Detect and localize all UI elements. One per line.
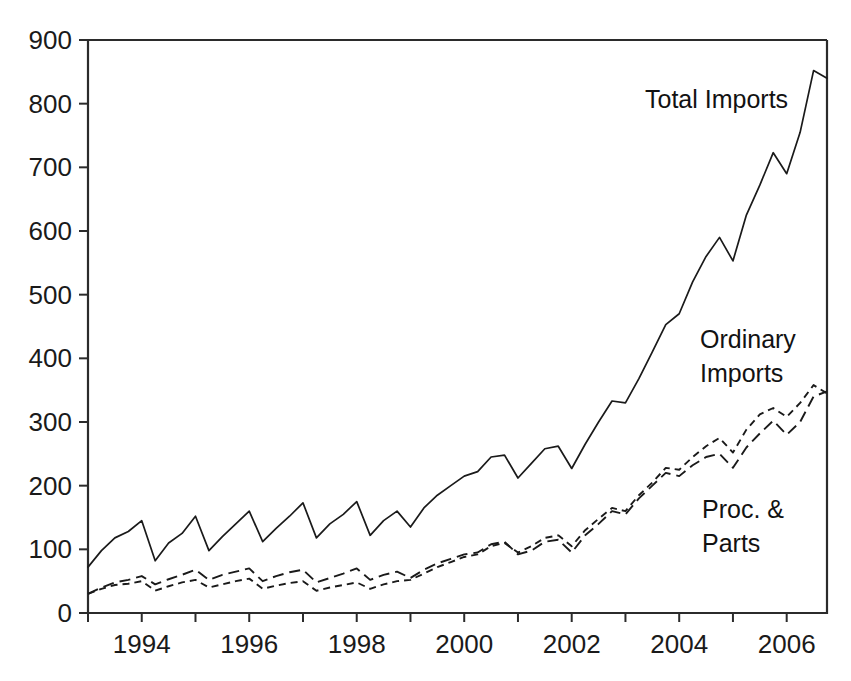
- annotation-line: Imports: [700, 359, 783, 387]
- x-tick-label: 2004: [650, 629, 708, 659]
- annotation-total-imports: Total Imports: [645, 85, 788, 113]
- x-tick-label: 2000: [435, 629, 493, 659]
- series-line-ordinary-imports: [88, 391, 827, 593]
- y-axis-ticks: [79, 40, 88, 613]
- y-tick-label: 400: [29, 343, 72, 373]
- annotation-proc-and-parts: Proc. &Parts: [702, 495, 784, 557]
- y-tick-label: 600: [29, 216, 72, 246]
- x-tick-label: 2002: [543, 629, 601, 659]
- annotation-line: Proc. &: [702, 495, 784, 523]
- x-tick-label: 1994: [113, 629, 171, 659]
- line-chart: 0100200300400500600700800900 19941996199…: [0, 0, 851, 681]
- x-tick-label: 2006: [758, 629, 816, 659]
- y-tick-label: 200: [29, 471, 72, 501]
- series-line-proc-parts: [88, 385, 827, 594]
- x-axis-tick-labels: 1994199619982000200220042006: [113, 629, 816, 659]
- annotation-ordinary-imports: OrdinaryImports: [700, 325, 796, 387]
- annotation-line: Parts: [702, 529, 760, 557]
- y-tick-label: 0: [58, 598, 72, 628]
- series-line-total-imports: [88, 71, 827, 568]
- y-tick-label: 500: [29, 280, 72, 310]
- y-tick-label: 800: [29, 89, 72, 119]
- x-axis-ticks: [88, 613, 787, 622]
- y-tick-label: 700: [29, 152, 72, 182]
- x-tick-label: 1998: [328, 629, 386, 659]
- series-annotations-group: Total ImportsOrdinaryImportsProc. &Parts: [645, 85, 796, 557]
- y-tick-label: 100: [29, 534, 72, 564]
- x-tick-label: 1996: [220, 629, 278, 659]
- annotation-line: Total Imports: [645, 85, 788, 113]
- y-tick-label: 900: [29, 25, 72, 55]
- y-tick-label: 300: [29, 407, 72, 437]
- y-axis-tick-labels: 0100200300400500600700800900: [29, 25, 72, 628]
- chart-container: 0100200300400500600700800900 19941996199…: [0, 0, 851, 681]
- annotation-line: Ordinary: [700, 325, 796, 353]
